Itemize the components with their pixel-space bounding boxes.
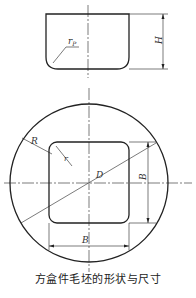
top-view <box>46 5 168 78</box>
rp-label: rP <box>68 36 77 47</box>
h-label: H <box>154 36 164 45</box>
b-horizontal-label: B <box>81 235 89 245</box>
rp-leader <box>53 47 79 63</box>
b-vertical-label: B <box>138 173 148 181</box>
h-arrow-bottom <box>162 64 165 69</box>
box-profile <box>46 14 129 69</box>
plan-view <box>4 88 192 272</box>
d-label: D <box>95 170 103 180</box>
drawing: rP H R r D B B <box>0 0 196 298</box>
h-arrow-top <box>162 14 165 19</box>
figure-caption: 方盒件毛坯的形状与尺寸 <box>0 270 196 286</box>
r-label: R <box>30 136 38 146</box>
